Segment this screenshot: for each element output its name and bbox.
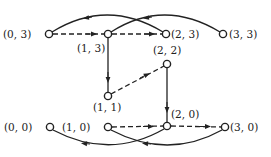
edge-20-30: [171, 126, 221, 127]
node-2-2: (2, 2): [153, 44, 181, 68]
svg-text:(3, 0): (3, 0): [230, 121, 258, 133]
node-1-1: (1, 1): [93, 92, 121, 113]
svg-text:(0, 3): (0, 3): [3, 28, 31, 40]
svg-text:(1, 0): (1, 0): [62, 121, 90, 133]
svg-text:(1, 3): (1, 3): [77, 42, 105, 54]
node-2-3: (2, 3): [162, 28, 199, 40]
node-0-3: (0, 3): [3, 28, 53, 40]
svg-text:(2, 0): (2, 0): [171, 108, 199, 120]
svg-text:(0, 0): (0, 0): [4, 121, 32, 133]
state-graph: (0, 3) (1, 3) (2, 3) (3, 3) (2, 2) (1, 1…: [0, 0, 271, 157]
edge-11-22: [111, 66, 164, 94]
svg-text:(2, 3): (2, 3): [171, 28, 199, 40]
svg-text:(1, 1): (1, 1): [93, 101, 121, 113]
node-3-0: (3, 0): [221, 121, 258, 133]
svg-text:(3, 3): (3, 3): [229, 28, 257, 40]
node-1-0: (1, 0): [62, 121, 112, 133]
edge-10-20: [112, 126, 163, 127]
svg-text:(2, 2): (2, 2): [153, 44, 181, 56]
node-0-0: (0, 0): [4, 121, 54, 133]
node-3-3: (3, 3): [219, 28, 257, 40]
